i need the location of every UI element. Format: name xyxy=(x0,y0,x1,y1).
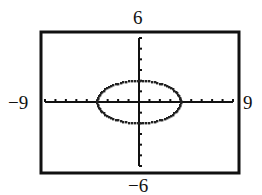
axes xyxy=(45,38,233,166)
graph-window xyxy=(0,0,262,195)
